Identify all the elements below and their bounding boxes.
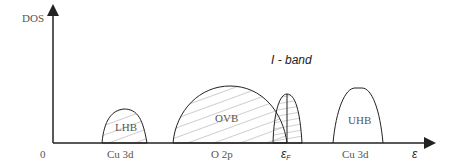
tick-fermi: εF — [281, 147, 291, 161]
tick-cu3d-2: Cu 3d — [342, 148, 369, 160]
origin-label: 0 — [40, 148, 46, 160]
tick-o2p: O 2p — [211, 148, 233, 160]
dos-diagram: DOS 0 ε LHB OVB I - band UHB Cu 3d O 2p … — [0, 0, 449, 166]
y-axis-label: DOS — [22, 12, 44, 24]
x-axis-label: ε — [412, 147, 418, 161]
i-band-label: I - band — [271, 53, 312, 67]
lhb-label: LHB — [115, 121, 137, 133]
tick-cu3d-1: Cu 3d — [107, 148, 134, 160]
ovb-label: OVB — [215, 112, 238, 124]
uhb-label: UHB — [348, 114, 371, 126]
